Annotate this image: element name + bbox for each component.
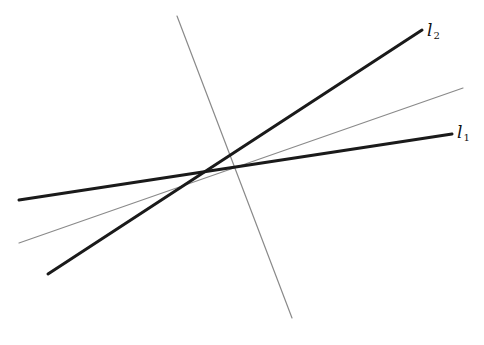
label-l2: l2 <box>427 22 440 41</box>
label-l1-sub: 1 <box>463 132 469 143</box>
diagram-canvas <box>0 0 484 345</box>
line-l1 <box>19 134 452 200</box>
label-l2-main: l <box>427 20 432 40</box>
label-l1: l1 <box>457 124 470 143</box>
line-l2 <box>48 30 422 274</box>
label-l1-main: l <box>457 122 462 142</box>
label-l2-sub: 2 <box>433 30 439 41</box>
